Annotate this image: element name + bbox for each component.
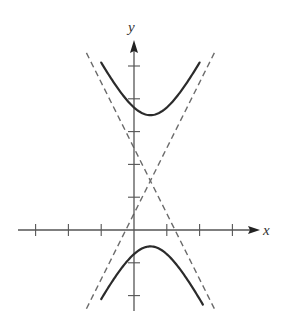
asymptote-positive [86, 50, 216, 309]
hyperbola-plot: x y [0, 0, 290, 333]
axes [18, 40, 260, 311]
y-axis-label: y [126, 19, 135, 35]
upper-branch [101, 63, 199, 116]
asymptotes [86, 50, 216, 309]
lower-branch [101, 246, 203, 304]
hyperbola-branches [101, 63, 203, 305]
x-axis-label: x [262, 222, 270, 238]
